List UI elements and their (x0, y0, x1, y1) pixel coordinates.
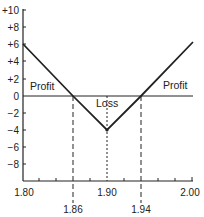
y-tick-label: +8 (8, 22, 20, 33)
breakeven-label-low: 1.86 (63, 204, 83, 215)
y-tick-labels: +10 +8 +6 +4 +2 0 −2 −4 −6 −8 (2, 5, 19, 170)
y-tick-label: +10 (2, 5, 19, 16)
breakeven-label-high: 1.94 (131, 204, 151, 215)
y-tick-label: +2 (8, 74, 20, 85)
payoff-chart: +10 +8 +6 +4 +2 0 −2 −4 −6 −8 Profit Los… (0, 0, 204, 217)
profit-label-left: Profit (30, 80, 55, 92)
y-tick-label: −8 (8, 159, 20, 170)
vertex-point (105, 128, 108, 131)
y-tick-label: +6 (8, 39, 20, 50)
x-tick-labels: 1.80 1.90 2.00 1.86 1.94 (14, 187, 200, 215)
loss-label: Loss (96, 97, 118, 109)
y-tick-label: +4 (8, 56, 20, 67)
x-tick-label: 1.80 (14, 187, 34, 198)
y-tick-label: 0 (13, 91, 19, 102)
y-tick-label: −2 (8, 108, 20, 119)
profit-label-right: Profit (163, 79, 188, 91)
x-tick-label: 2.00 (180, 187, 200, 198)
y-tick-label: −4 (8, 125, 20, 136)
x-tick-label: 1.90 (97, 187, 117, 198)
y-tick-label: −6 (8, 142, 20, 153)
